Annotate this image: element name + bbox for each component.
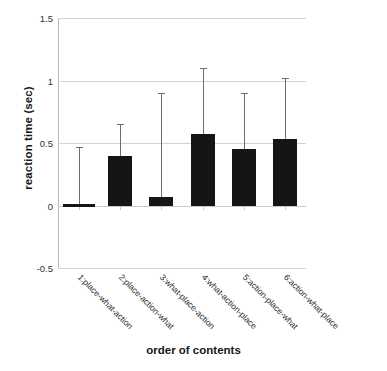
bar [273,139,297,205]
y-tick-label: -0.5 [37,263,53,274]
y-tick-label: 1 [48,75,53,86]
x-tick-mark [244,206,245,210]
x-tick-mark [203,206,204,210]
bar [232,149,256,205]
y-gridline [58,268,306,269]
error-bar-cap [76,147,83,148]
error-bar-stem [79,147,80,206]
x-tick-mark [120,206,121,210]
y-tick-label: 0.5 [40,138,53,149]
chart-figure: reaction time (sec) 1.510.50-0.5 order o… [0,0,387,371]
y-gridline [58,206,306,207]
x-tick-mark [161,206,162,210]
y-tick-label: 0 [48,200,53,211]
bar [149,197,173,206]
y-axis-title: reaction time (sec) [22,58,34,218]
y-gridline [58,18,306,19]
x-axis-title: order of contents [0,344,387,356]
bar [63,204,95,207]
y-gridline [58,143,306,144]
error-bar-cap [117,124,124,125]
error-bar-cap [200,68,207,69]
plot-area: 1.510.50-0.5 [58,18,306,268]
y-tick-label: 1.5 [40,13,53,24]
x-tick-mark [285,206,286,210]
y-gridline [58,81,306,82]
error-bar-cap [158,93,165,94]
bar [191,134,215,205]
error-bar-cap [241,93,248,94]
error-bar-stem [161,93,162,206]
bar [108,156,132,206]
error-bar-cap [282,78,289,79]
